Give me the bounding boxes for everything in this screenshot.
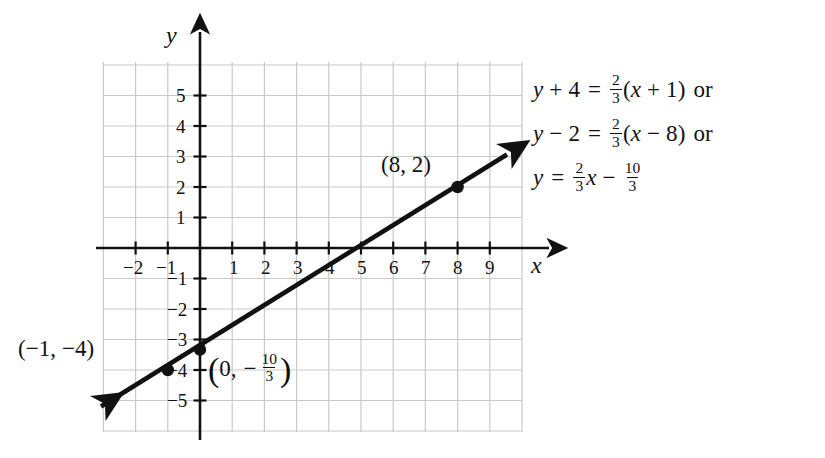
point-label-8-2: (8, 2) — [381, 152, 431, 178]
conjunction-or: or — [693, 121, 712, 147]
paren-open: ( — [623, 121, 631, 147]
variable-y: y — [533, 165, 543, 191]
operator-minus: − — [603, 165, 616, 191]
constant-4: 4 — [568, 77, 580, 103]
data-point — [451, 181, 463, 193]
fraction-numerator: 2 — [610, 72, 622, 88]
constant-1: 1 — [666, 77, 678, 103]
fraction-denominator: 3 — [573, 177, 585, 194]
comma: , — [231, 356, 237, 382]
fraction-numerator: 2 — [610, 116, 622, 132]
point-x-value: 0 — [219, 356, 231, 382]
equation-point-slope-1: y + 4 = 23 ( x + 1 ) or — [533, 68, 823, 112]
x-tick-label: 9 — [485, 258, 495, 277]
fraction-numerator: 10 — [623, 160, 643, 176]
y-tick-label: 5 — [176, 86, 186, 105]
y-tick-label: 3 — [176, 147, 186, 166]
y-axis-label: y — [166, 22, 177, 49]
y-tick-label: −4 — [167, 361, 187, 380]
fraction-2-over-3: 23 — [610, 72, 622, 105]
fraction-2-over-3: 23 — [610, 116, 622, 149]
y-tick-label: 1 — [176, 208, 186, 227]
fraction-2-over-3: 23 — [573, 160, 585, 193]
y-tick-label: −2 — [167, 300, 187, 319]
y-tick-label: −3 — [167, 330, 187, 349]
x-tick-label: 7 — [421, 258, 431, 277]
equals-sign: = — [551, 165, 564, 191]
x-tick-label: 5 — [357, 258, 367, 277]
paren-close: ) — [678, 121, 686, 147]
minus-sign: − — [244, 356, 257, 382]
x-axis-label: x — [531, 252, 542, 279]
variable-x: x — [631, 121, 641, 147]
point-y-value: −4 — [62, 336, 86, 362]
paren-close: ) — [678, 77, 686, 103]
comma: , — [50, 336, 56, 362]
figure-page: y x 1 2 3 4 5 6 7 8 9 −2 −1 5 4 3 2 1 −1… — [0, 0, 825, 458]
operator-plus: + — [647, 77, 660, 103]
x-tick-label: 8 — [453, 258, 463, 277]
operator-plus: + — [549, 77, 562, 103]
fraction-10-over-3: 103 — [623, 160, 643, 193]
operator-minus: − — [549, 121, 562, 147]
paren-close: ) — [86, 336, 94, 362]
fraction-denominator: 3 — [610, 133, 622, 150]
x-tick-label: 1 — [229, 258, 239, 277]
y-tick-label: 2 — [176, 178, 186, 197]
coordinate-graph: y x 1 2 3 4 5 6 7 8 9 −2 −1 5 4 3 2 1 −1… — [0, 0, 570, 458]
data-point — [194, 344, 206, 356]
x-tick-label: 2 — [261, 258, 271, 277]
fraction-denominator: 3 — [610, 89, 622, 106]
equals-sign: = — [588, 121, 601, 147]
x-tick-label: 3 — [293, 258, 303, 277]
x-tick-label: 4 — [325, 258, 335, 277]
x-tick-label: −2 — [123, 258, 143, 277]
y-tick-label: −5 — [167, 391, 187, 410]
y-tick-label: 4 — [176, 117, 186, 136]
graph-svg — [0, 0, 570, 458]
equals-sign: = — [588, 77, 601, 103]
fraction-denominator: 3 — [627, 177, 639, 194]
constant-8: 8 — [666, 121, 678, 147]
y-tick-label: −1 — [167, 269, 187, 288]
fraction-10-over-3: 103 — [260, 351, 280, 384]
point-x-value: −1 — [26, 336, 50, 362]
conjunction-or: or — [693, 77, 712, 103]
variable-x: x — [631, 77, 641, 103]
fraction-numerator: 2 — [573, 160, 585, 176]
equation-list: y + 4 = 23 ( x + 1 ) or y − 2 = 23 ( x −… — [533, 68, 823, 200]
fraction-numerator: 10 — [260, 351, 280, 367]
equation-point-slope-2: y − 2 = 23 ( x − 8 ) or — [533, 112, 823, 156]
variable-x: x — [586, 165, 596, 191]
variable-y: y — [533, 77, 543, 103]
point-label-0-neg10over3: (0,−103) — [208, 352, 291, 385]
paren-open: ( — [623, 77, 631, 103]
operator-minus: − — [647, 121, 660, 147]
variable-y: y — [533, 121, 543, 147]
constant-2: 2 — [568, 121, 580, 147]
point-label-neg1-neg4: (−1,−4) — [18, 336, 94, 362]
x-tick-label: 6 — [389, 258, 399, 277]
equation-slope-intercept: y = 23 x − 103 — [533, 156, 823, 200]
fraction-denominator: 3 — [263, 367, 275, 384]
paren-open: ( — [18, 336, 26, 362]
